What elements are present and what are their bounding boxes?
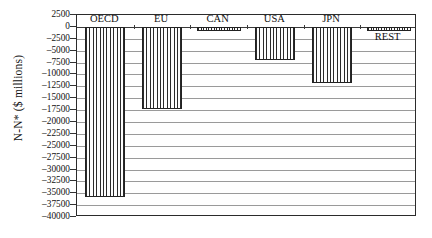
y-axis-tick-label: –2500: [24, 33, 70, 42]
y-axis-tick-label: –37500: [24, 200, 70, 209]
x-axis-tick-mark: [360, 25, 361, 29]
y-axis-tick-mark: [70, 216, 76, 217]
bar-eu: [142, 27, 182, 109]
x-axis-tick-mark: [190, 25, 191, 29]
y-axis-tick-label: –17500: [24, 105, 70, 114]
category-label-jpn: JPN: [291, 13, 371, 24]
chart-container: N-N* ($ millions) 25000–2500–5000–7500–1…: [0, 0, 432, 238]
y-axis-tick-label: –35000: [24, 188, 70, 197]
y-axis-tick-label: –32500: [24, 176, 70, 185]
y-axis-tick-label: –27500: [24, 152, 70, 161]
y-axis-tick-label: –12500: [24, 81, 70, 90]
y-axis-tick-label: –20000: [24, 116, 70, 125]
y-axis-tick-label: –7500: [24, 57, 70, 66]
category-label-rest: REST: [348, 31, 428, 42]
y-axis-tick-label: 2500: [24, 10, 70, 19]
bar-jpn: [312, 27, 352, 83]
y-axis-tick-labels: 25000–2500–5000–7500–10000–12500–15000–1…: [24, 0, 70, 238]
y-axis-title: N-N* ($ millions): [12, 13, 24, 183]
bar-oecd: [85, 27, 125, 197]
x-axis-tick-mark: [304, 25, 305, 29]
y-axis-tick-label: –25000: [24, 140, 70, 149]
y-axis-tick-label: –10000: [24, 69, 70, 78]
bar-can: [197, 27, 241, 31]
y-axis-tick-label: –15000: [24, 93, 70, 102]
y-axis-tick-label: –22500: [24, 128, 70, 137]
y-axis-tick-label: –5000: [24, 45, 70, 54]
x-axis-tick-mark: [247, 25, 248, 29]
y-axis-tick-label: –30000: [24, 164, 70, 173]
y-axis-tick-label: –40000: [24, 212, 70, 221]
plot-area: [76, 14, 416, 216]
x-axis-tick-mark: [134, 25, 135, 29]
y-axis-tick-label: 0: [24, 21, 70, 30]
bars-layer: [77, 15, 415, 215]
bar-usa: [255, 27, 295, 60]
